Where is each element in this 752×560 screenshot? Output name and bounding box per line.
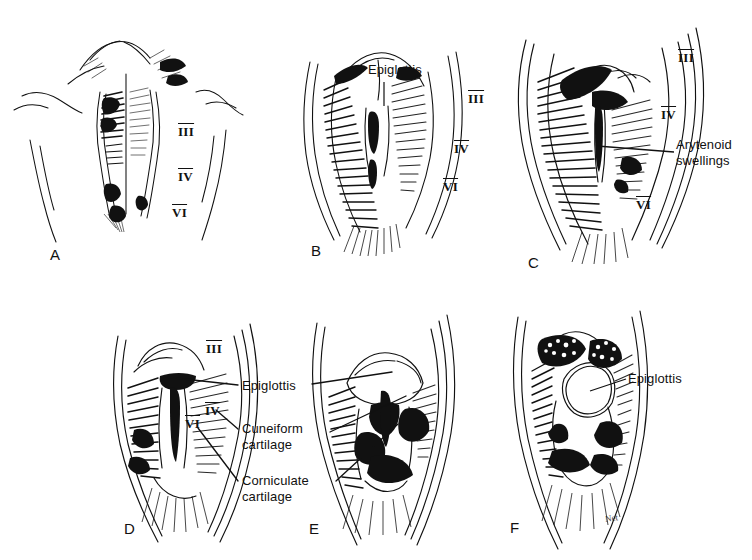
de-label-group: Epiglottis Cuneiform cartilage Cornicula… [0, 0, 752, 560]
de-leader-lines [0, 0, 752, 560]
label-cuneiform-cartilage: Cuneiform cartilage [242, 421, 303, 453]
label-epiglottis-de: Epiglottis [242, 378, 296, 393]
larynx-development-figure: III IV VI A [0, 0, 752, 560]
label-corniculate-cartilage: Corniculate cartilage [242, 473, 309, 505]
